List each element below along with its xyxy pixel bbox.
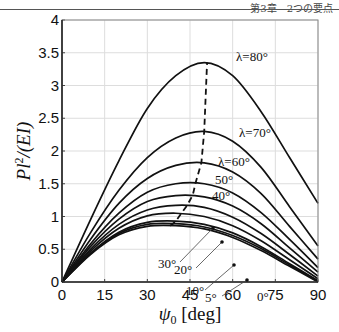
curve-label: 10° xyxy=(186,283,204,298)
curve-label: λ=80° xyxy=(236,49,268,64)
x-tick-label: 30 xyxy=(139,286,156,303)
y-tick-label: 1 xyxy=(51,208,59,225)
y-tick-label: 4 xyxy=(51,11,59,28)
label-leader-line xyxy=(180,228,213,262)
y-tick-label: 2 xyxy=(51,142,59,159)
y-tick-label: 1.5 xyxy=(38,175,59,192)
x-tick-label: 0 xyxy=(58,286,66,303)
curve-label: λ=60° xyxy=(218,154,250,169)
y-tick-label: 3.5 xyxy=(38,44,59,61)
curve-label: λ=70° xyxy=(239,125,271,140)
maxima-locus-dashed xyxy=(170,63,207,226)
curve-label: 50° xyxy=(215,172,233,187)
y-axis-label: Pl2/(EI) xyxy=(12,122,35,182)
x-tick-label: 90 xyxy=(310,286,327,303)
x-tick-label: 75 xyxy=(267,286,284,303)
x-axis-label: ψ0 [deg] xyxy=(159,303,222,327)
chart: 015304560759000.511.522.533.54 λ=80°λ=70… xyxy=(0,0,339,332)
curve-label: 0° xyxy=(257,289,269,304)
y-tick-label: 0 xyxy=(51,273,59,290)
y-tick-label: 3 xyxy=(51,77,59,94)
x-tick-label: 15 xyxy=(96,286,113,303)
curve-labels: λ=80°λ=70°λ=60°50°40°30°20°10°5°0° xyxy=(158,49,271,305)
x-tick-label: 60 xyxy=(224,286,241,303)
y-tick-label: 0.5 xyxy=(38,240,59,257)
y-tick-label: 2.5 xyxy=(38,109,59,126)
curve-label: 20° xyxy=(174,262,192,277)
curve-label: 40° xyxy=(212,188,230,203)
label-leader-line xyxy=(196,242,222,268)
